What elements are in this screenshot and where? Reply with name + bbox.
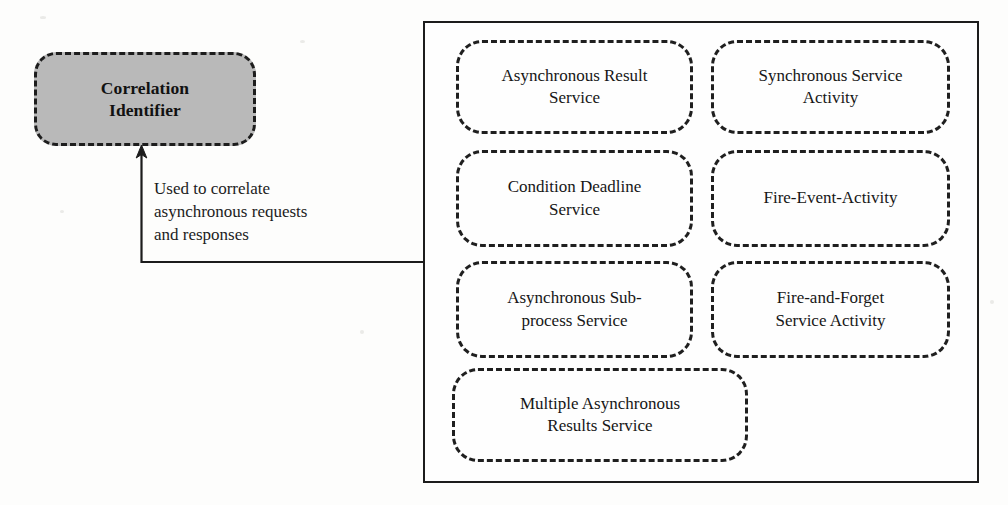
pattern-node-label: Correlation Identifier <box>101 77 189 122</box>
impl-box-synchronous-service-activity[interactable]: Synchronous Service Activity <box>711 40 950 134</box>
connector-annotation-line2: asynchronous requests <box>154 201 424 224</box>
impl-label-line2: process Service <box>521 311 627 330</box>
impl-label-line1: Asynchronous Sub- <box>507 288 642 307</box>
scan-speck <box>990 300 994 304</box>
impl-label-line1: Fire-and-Forget <box>777 288 884 307</box>
pattern-node-label-line2: Identifier <box>109 100 181 120</box>
impl-box-fire-event-activity[interactable]: Fire-Event-Activity <box>711 150 950 247</box>
connector-annotation-line1: Used to correlate <box>154 178 424 201</box>
scan-speck <box>60 210 64 213</box>
pattern-node-label-line1: Correlation <box>101 78 189 98</box>
diagram-canvas: Correlation Identifier Used to correlate… <box>0 0 1008 505</box>
impl-label-line2: Results Service <box>547 416 652 435</box>
impl-box-label: Asynchronous Sub- process Service <box>507 287 642 331</box>
impl-box-label: Condition Deadline Service <box>508 176 642 220</box>
impl-label-line1: Synchronous Service <box>758 66 902 85</box>
impl-box-label: Synchronous Service Activity <box>758 65 902 109</box>
impl-box-condition-deadline-service[interactable]: Condition Deadline Service <box>456 150 693 247</box>
impl-box-label: Multiple Asynchronous Results Service <box>520 393 680 437</box>
impl-label-line2: Service <box>549 88 600 107</box>
scan-speck <box>300 40 305 43</box>
impl-label-line2: Service <box>549 200 600 219</box>
scan-speck <box>360 330 364 334</box>
impl-box-label: Fire-and-Forget Service Activity <box>775 287 885 331</box>
impl-box-fire-and-forget-service-activity[interactable]: Fire-and-Forget Service Activity <box>711 261 950 358</box>
pattern-node-correlation-identifier[interactable]: Correlation Identifier <box>34 52 256 146</box>
impl-label-line1: Asynchronous Result <box>502 66 648 85</box>
impl-label-line1: Fire-Event-Activity <box>763 188 897 207</box>
impl-box-multiple-asynchronous-results-service[interactable]: Multiple Asynchronous Results Service <box>452 368 748 462</box>
impl-label-line2: Service Activity <box>775 311 885 330</box>
impl-box-asynchronous-subprocess-service[interactable]: Asynchronous Sub- process Service <box>456 261 693 358</box>
impl-label-line1: Multiple Asynchronous <box>520 394 680 413</box>
impl-label-line2: Activity <box>803 88 859 107</box>
connector-annotation-line3: and responses <box>154 224 424 247</box>
impl-box-label: Asynchronous Result Service <box>502 65 648 109</box>
impl-box-label: Fire-Event-Activity <box>763 187 897 209</box>
scan-speck <box>40 16 46 19</box>
implementations-panel: Asynchronous Result Service Synchronous … <box>423 21 979 483</box>
impl-box-asynchronous-result-service[interactable]: Asynchronous Result Service <box>456 40 693 134</box>
connector-annotation: Used to correlate asynchronous requests … <box>154 178 424 246</box>
impl-label-line1: Condition Deadline <box>508 177 642 196</box>
